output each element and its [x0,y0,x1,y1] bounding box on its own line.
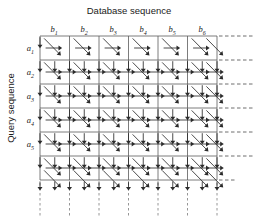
arrow-vertical-c3-r6 [82,109,87,120]
arrow-vertical-c7-r8 [141,133,146,144]
arrow-diagonal-r5-c1 [44,86,61,103]
col-label-sub-5: 5 [173,30,176,36]
row-tick-labels: a1 a2 a3 a4 a5 [27,43,34,151]
arrow-diagonal-r1-c9 [162,38,179,55]
arrow-diagonal-r3-c9 [162,62,179,79]
arrow-vertical-c0-r0 [38,37,43,48]
arrow-diagonal-r9-c3 [74,134,91,151]
arrow-vertical-c10-r6 [185,109,190,120]
arrow-diagonal-r5-c5 [103,86,120,103]
arrow-vertical-c2-r8 [67,133,72,144]
arrow-vertical-below-c6 [126,182,131,191]
arrow-diagonal-r1-c11 [192,38,209,55]
arrow-vertical-c10-r8 [185,133,190,144]
arrow-diagonal-r7-c3 [74,110,91,127]
row-label-sub-5: 5 [31,145,34,151]
arrow-diagonal-r1-c5 [103,38,120,55]
arrow-vertical-c11-r4 [200,85,205,96]
arrow-vertical-c2-r4 [67,85,72,96]
arrow-vertical-c12-r8 [215,133,220,144]
svg-text:a3: a3 [27,91,34,103]
arrow-diagonal-r5-c7 [133,86,150,103]
arrow-vertical-c8-r6 [156,109,161,120]
col-label-sub-2: 2 [85,30,88,36]
arrow-vertical-c8-r2 [156,61,161,72]
column-tick-label-b5: b5 [168,24,175,36]
arrow-vertical-c6-r2 [126,61,131,72]
arrow-vertical-c11-r2 [200,61,205,72]
arrow-vertical-c6-r10 [126,157,131,168]
row-tick-label-a5: a5 [27,139,34,151]
arrow-diagonal-r3-c1 [44,62,61,79]
arrow-diagonal-r5-c3 [74,86,91,103]
left-axis-title: Query sequence [5,73,16,143]
arrow-vertical-c4-r2 [97,61,102,72]
arrow-vertical-c5-r2 [111,61,116,72]
arrow-vertical-c4-r10 [97,157,102,168]
arrow-vertical-c1-r6 [52,109,57,120]
arrow-vertical-c4-r6 [97,109,102,120]
row-tick-label-a3: a3 [27,91,34,103]
row-label-sub-4: 4 [31,121,34,127]
arrow-vertical-c8-r10 [156,157,161,168]
arrow-vertical-c5-r8 [111,133,116,144]
column-tick-label-b6: b6 [198,24,205,36]
arrow-vertical-below-c2 [67,182,72,191]
arrow-vertical-c9-r2 [170,61,175,72]
arrow-vertical-c3-r8 [82,133,87,144]
arrow-diagonal-r9-c7 [133,134,150,151]
arrow-vertical-below-c4 [97,182,102,191]
row-label-sub-3: 3 [30,97,34,103]
arrow-diagonal-r3-c5 [103,62,120,79]
arrow-vertical-c2-r10 [67,157,72,168]
arrow-vertical-c3-r10 [82,157,87,168]
svg-text:a4: a4 [27,115,34,127]
arrow-diagonal-r3-c7 [133,62,150,79]
arrow-diagonal-r7-c9 [162,110,179,127]
svg-text:b3: b3 [109,24,116,36]
arrow-diagonal-r3-c3 [74,62,91,79]
arrow-vertical-below-c10 [185,182,190,191]
arrow-vertical-c10-r4 [185,85,190,96]
arrow-vertical-c12-r6 [215,109,220,120]
svg-text:b1: b1 [50,24,57,36]
arrow-vertical-c0-r2 [38,61,43,72]
arrow-vertical-c11-r8 [200,133,205,144]
arrow-vertical-c6-r4 [126,85,131,96]
arrow-diagonal-r1-c1 [44,38,61,55]
arrow-diagonal-r1-c3 [74,38,91,55]
top-axis-title: Database sequence [87,5,172,16]
arrow-vertical-c9-r4 [170,85,175,96]
arrow-diagonal-r9-c9 [162,134,179,151]
arrow-vertical-c1-r2 [52,61,57,72]
arrow-vertical-c12-r2 [215,61,220,72]
col-label-sub-3: 3 [113,30,117,36]
arrow-vertical-c1-r4 [52,85,57,96]
row-tick-label-a4: a4 [27,115,34,127]
arrow-diagonal-r7-c7 [133,110,150,127]
arrow-diagonal-r7-c11 [192,110,209,127]
arrow-vertical-c3-r2 [82,61,87,72]
arrow-diagonal-r7-c5 [103,110,120,127]
arrow-vertical-c1-r10 [52,157,57,168]
arrow-vertical-c7-r10 [141,157,146,168]
arrow-vertical-c7-r2 [141,61,146,72]
column-tick-label-b4: b4 [139,24,146,36]
col-label-sub-6: 6 [203,30,206,36]
col-label-sub-4: 4 [144,30,147,36]
arrow-vertical-c8-r8 [156,133,161,144]
svg-text:a5: a5 [27,139,34,151]
arrow-diagonal-r1-c7 [133,38,150,55]
row-label-sub-2: 2 [31,73,34,79]
row-tick-label-a1: a1 [27,43,34,55]
svg-text:b4: b4 [139,24,146,36]
arrow-vertical-c12-r10 [215,157,220,168]
arrow-vertical-c9-r6 [170,109,175,120]
arrow-vertical-below-c8 [156,182,161,191]
arrow-vertical-below-c0 [38,182,43,191]
arrow-vertical-c9-r8 [170,133,175,144]
arrow-diagonal-r9-c1 [44,134,61,151]
arrow-vertical-c7-r4 [141,85,146,96]
arrow-vertical-c1-r8 [52,133,57,144]
arrow-diagonal-edge-r1 [206,38,223,55]
